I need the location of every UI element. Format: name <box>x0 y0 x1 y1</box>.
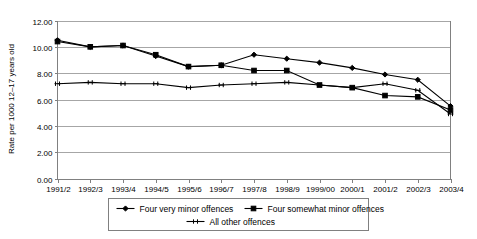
x-tick-label: 1994/5 <box>144 185 169 194</box>
marker-cross <box>218 83 224 87</box>
marker-square <box>153 52 158 57</box>
x-tick-label: 1997/8 <box>242 185 267 194</box>
marker-square <box>284 68 289 73</box>
marker-cross <box>153 82 159 86</box>
marker-cross <box>382 82 388 86</box>
x-tick-label: 1996/7 <box>209 185 234 194</box>
x-axis-ticks: 1991/21992/31993/41994/51995/61996/71997… <box>46 179 464 194</box>
series-3 <box>55 80 454 116</box>
y-tick-label: 2.00 <box>37 149 53 158</box>
y-tick-label: 0.00 <box>37 176 53 185</box>
marker-cross <box>120 82 126 86</box>
y-tick-label: 12.00 <box>32 18 53 27</box>
marker-cross <box>415 88 421 92</box>
marker-diamond <box>317 60 322 65</box>
y-tick-label: 10.00 <box>32 44 53 53</box>
legend-label: All other offences <box>210 217 276 227</box>
marker-square <box>121 43 126 48</box>
legend-label: Four somewhat minor offences <box>268 204 385 214</box>
x-tick-label: 1999/00 <box>306 185 335 194</box>
x-tick-label: 2003/4 <box>439 185 464 194</box>
legend-label: Four very minor offences <box>140 204 234 214</box>
marker-square <box>88 45 93 50</box>
chart-legend: Four very minor offencesFour somewhat mi… <box>109 199 385 231</box>
y-tick-label: 4.00 <box>37 123 53 132</box>
marker-square <box>55 39 60 44</box>
marker-square <box>186 64 191 69</box>
x-tick-label: 1991/2 <box>46 185 71 194</box>
x-tick-label: 1992/3 <box>78 185 103 194</box>
marker-cross <box>87 80 93 84</box>
marker-diamond <box>350 65 355 70</box>
marker-square <box>448 108 453 113</box>
x-tick-label: 2002/3 <box>406 185 431 194</box>
y-axis-title-text: Rate per 1000 12–17 years old <box>7 44 16 154</box>
x-tick-label: 1993/4 <box>111 185 136 194</box>
marker-diamond <box>382 72 387 77</box>
x-tick-label: 2000/1 <box>340 185 365 194</box>
x-tick-label: 1995/6 <box>177 185 202 194</box>
y-axis-title: Rate per 1000 12–17 years old <box>7 44 16 154</box>
data-series <box>55 38 454 117</box>
plot-frame <box>58 21 451 180</box>
marker-diamond <box>284 56 289 61</box>
x-tick-label: 2001/2 <box>373 185 398 194</box>
line-chart: 0.002.004.006.008.0010.0012.00 1991/2199… <box>0 0 477 239</box>
marker-square <box>415 95 420 100</box>
series-line <box>58 82 451 114</box>
y-tick-label: 6.00 <box>37 97 53 106</box>
y-axis-ticks: 0.002.004.006.008.0010.0012.00 <box>32 18 57 185</box>
marker-cross <box>251 82 257 86</box>
marker-cross <box>284 80 290 84</box>
y-tick-label: 8.00 <box>37 70 53 79</box>
marker-square <box>252 68 257 73</box>
gridlines <box>58 22 451 180</box>
marker-diamond <box>251 52 256 57</box>
marker-square <box>219 63 224 68</box>
chart-container: 0.002.004.006.008.0010.0012.00 1991/2199… <box>0 0 477 239</box>
marker-cross <box>186 85 192 89</box>
marker-square <box>383 93 388 98</box>
marker-square <box>251 206 256 211</box>
x-tick-label: 1998/9 <box>275 185 300 194</box>
